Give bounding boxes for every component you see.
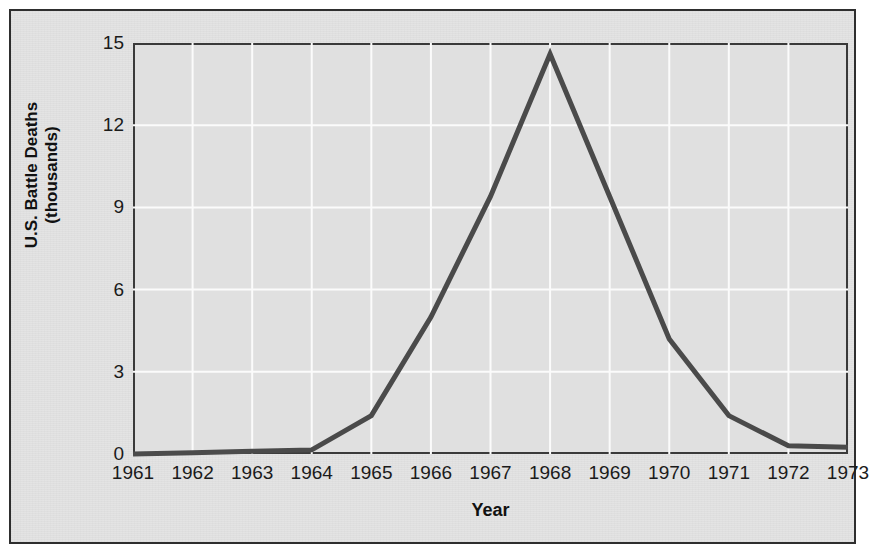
data-series-line xyxy=(133,43,848,454)
x-axis-tick-label: 1969 xyxy=(589,462,631,484)
x-axis-tick-label: 1973 xyxy=(827,462,869,484)
y-axis-tick-labels: 03691215 xyxy=(88,43,124,454)
y-axis-tick-label: 9 xyxy=(113,196,124,218)
x-axis-tick-label: 1965 xyxy=(350,462,392,484)
x-axis-tick-label: 1970 xyxy=(648,462,690,484)
y-axis-title-line1: U.S. Battle Deaths xyxy=(22,102,41,248)
x-axis-tick-label: 1964 xyxy=(291,462,333,484)
x-axis-tick-label: 1972 xyxy=(767,462,809,484)
y-axis-tick-label: 3 xyxy=(113,361,124,383)
y-axis-tick-label: 15 xyxy=(103,32,124,54)
x-axis-tick-label: 1966 xyxy=(410,462,452,484)
x-axis-tick-label: 1962 xyxy=(171,462,213,484)
x-axis-title: Year xyxy=(133,500,848,521)
series-polyline xyxy=(133,54,848,454)
x-axis-tick-label: 1967 xyxy=(469,462,511,484)
y-axis-tick-label: 6 xyxy=(113,279,124,301)
x-axis-tick-label: 1968 xyxy=(529,462,571,484)
x-axis-tick-label: 1961 xyxy=(112,462,154,484)
plot-area-wrapper xyxy=(133,43,848,454)
y-axis-title-line2: (thousands) xyxy=(42,60,62,290)
figure-canvas: U.S. Battle Deaths (thousands) 03691215 … xyxy=(0,0,875,554)
y-axis-title: U.S. Battle Deaths (thousands) xyxy=(22,60,62,290)
y-axis-tick-label: 12 xyxy=(103,114,124,136)
x-axis-tick-labels: 1961196219631964196519661967196819691970… xyxy=(133,462,848,488)
x-axis-tick-label: 1963 xyxy=(231,462,273,484)
x-axis-tick-label: 1971 xyxy=(708,462,750,484)
